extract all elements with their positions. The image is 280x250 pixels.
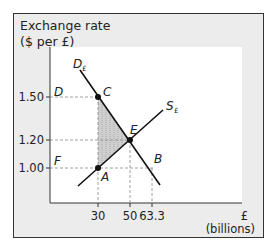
- supply-label-sub: £: [174, 107, 178, 115]
- x-tick-50: 50: [123, 209, 138, 223]
- point-e: [127, 137, 133, 143]
- shaded-area: [98, 97, 130, 168]
- supply-curve: [78, 110, 163, 186]
- label-f-axis: F: [54, 154, 62, 168]
- x-tick-30: 30: [91, 209, 106, 223]
- label-a: A: [100, 170, 109, 184]
- chart-svg: 1.50 1.20 1.00 30 50 63.3 £ (billions) C…: [0, 0, 280, 250]
- x-axis-title-line1: £: [241, 209, 248, 223]
- label-c: C: [103, 85, 112, 99]
- demand-label: D: [73, 57, 82, 71]
- demand-label-sub: £: [82, 65, 86, 73]
- point-c: [95, 94, 101, 100]
- y-tick-100: 1.00: [18, 161, 44, 175]
- supply-label: S: [166, 99, 174, 113]
- x-tick-633: 63.3: [139, 209, 165, 223]
- y-tick-120: 1.20: [18, 133, 44, 147]
- x-axis-title-line2: (billions): [206, 222, 255, 236]
- label-e: E: [130, 123, 138, 137]
- label-d-axis: D: [54, 85, 63, 99]
- label-b: B: [154, 152, 162, 166]
- y-tick-150: 1.50: [18, 90, 44, 104]
